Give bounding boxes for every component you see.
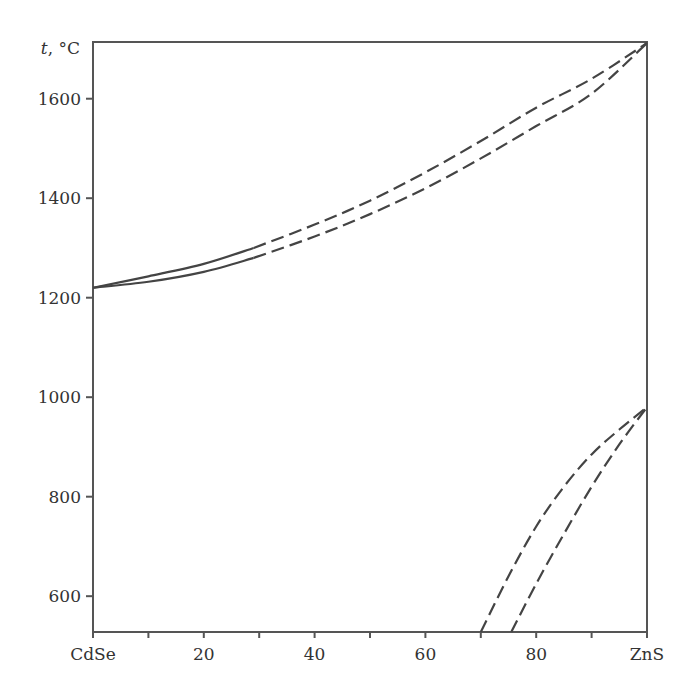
y-axis-title-unit: , °C bbox=[48, 38, 80, 58]
phase-diagram-chart: t, °C 6008001000120014001600 CdSe2040608… bbox=[0, 0, 698, 693]
x-tick-label: 80 bbox=[525, 644, 547, 664]
y-axis-ticks: 6008001000120014001600 bbox=[38, 89, 93, 606]
curve-solid-segment bbox=[93, 248, 254, 288]
y-tick-label: 1400 bbox=[38, 188, 81, 208]
y-tick-label: 800 bbox=[49, 487, 81, 507]
x-tick-label: ZnS bbox=[630, 644, 664, 664]
plot-border bbox=[93, 42, 647, 632]
x-tick-label: CdSe bbox=[70, 644, 116, 664]
y-tick-label: 1600 bbox=[38, 89, 81, 109]
phase-curves bbox=[93, 43, 647, 632]
y-tick-label: 600 bbox=[49, 586, 81, 606]
x-tick-label: 60 bbox=[415, 644, 437, 664]
x-axis-ticks: CdSe20406080ZnS bbox=[70, 632, 664, 664]
plot-frame bbox=[93, 42, 647, 632]
x-tick-label: 40 bbox=[304, 644, 326, 664]
y-tick-label: 1000 bbox=[38, 387, 81, 407]
curve-dashed bbox=[511, 407, 647, 632]
x-tick-label: 20 bbox=[193, 644, 215, 664]
y-tick-label: 1200 bbox=[38, 288, 81, 308]
curve-dashed-segment bbox=[254, 43, 647, 248]
y-axis-title: t, °C bbox=[41, 38, 80, 58]
